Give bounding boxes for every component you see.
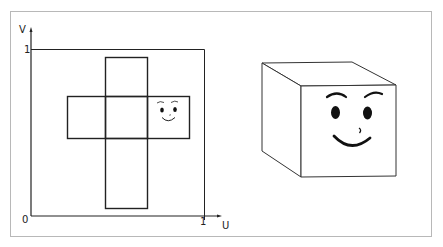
cube-front-face (301, 85, 396, 177)
cube-net (68, 58, 190, 209)
net-face-top (106, 58, 148, 97)
u-axis-label: U (222, 220, 229, 231)
left-eye (331, 106, 340, 119)
v-axis-label: V (19, 24, 26, 35)
uv-map: V 1 0 1 U (19, 24, 229, 231)
origin-label: 0 (22, 214, 28, 225)
u-axis-arrow-icon (217, 215, 222, 218)
net-face-left (68, 97, 106, 139)
net-face-bottom (106, 139, 148, 209)
net-smiley-icon (157, 101, 178, 121)
right-eye (363, 107, 372, 120)
v-max-label: 1 (24, 44, 30, 55)
u-max-label: 1 (200, 216, 206, 227)
net-face-right (148, 97, 190, 139)
cube-3d (262, 62, 396, 177)
v-axis-arrow-icon (30, 27, 33, 32)
net-face-front (106, 97, 148, 139)
uv-cube-diagram: V 1 0 1 U (0, 0, 443, 247)
